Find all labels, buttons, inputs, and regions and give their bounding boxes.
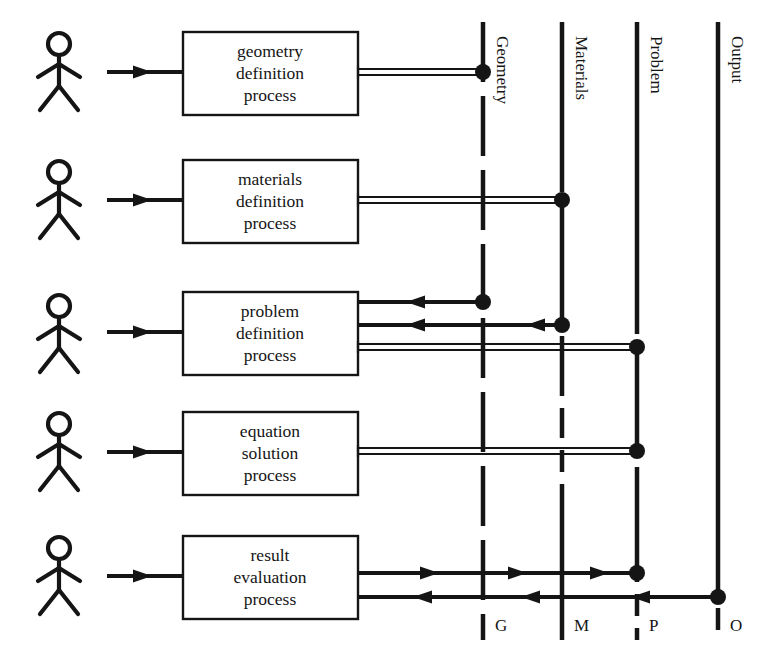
equation-process-writes-problem[interactable] (358, 443, 645, 459)
result-evaluation-process[interactable]: result evaluation process (183, 536, 358, 619)
lifeline-anchor-dot (475, 64, 491, 80)
actor-leg-right (59, 466, 78, 490)
actor-result[interactable] (38, 537, 80, 614)
lifeline-problem[interactable]: Problem P (637, 22, 666, 640)
row-problem-definition: problem definition process (38, 292, 645, 375)
actor-to-result-process-arrow[interactable] (107, 570, 183, 583)
geometry-process-line3: process (244, 85, 297, 105)
actor-equation[interactable] (38, 413, 80, 490)
arrowhead-right-icon (133, 194, 152, 207)
actor-arm-left (38, 192, 59, 205)
arrowhead-right-icon (508, 567, 527, 580)
actor-arm-left (38, 326, 59, 339)
actor-leg-right (59, 86, 78, 110)
arrowhead-left-icon (406, 296, 425, 309)
materials-definition-process[interactable]: materials definition process (183, 160, 358, 243)
arrowhead-left-icon (521, 591, 540, 604)
arrowhead-left-icon (413, 591, 432, 604)
lifeline-anchor-dot (629, 339, 645, 355)
actor-to-geometry-process-arrow[interactable] (107, 66, 183, 79)
lifeline-output-label: Output (728, 36, 747, 84)
actor-geometry[interactable] (38, 33, 80, 110)
result-process-writes-problem[interactable] (358, 565, 645, 581)
arrowhead-right-icon (420, 567, 439, 580)
materials-process-line1: materials (238, 169, 302, 189)
actor-head-icon (48, 537, 70, 559)
actor-leg-right (59, 348, 78, 372)
geometry-process-line2: definition (236, 63, 304, 83)
problem-process-line2: definition (236, 323, 304, 343)
actor-arm-right (59, 326, 80, 339)
arrowhead-right-icon (133, 446, 152, 459)
lifelines-group: Geometry G Materials M Problem P Output … (483, 22, 747, 640)
row-result-evaluation: result evaluation process (38, 536, 726, 619)
lifeline-anchor-dot (710, 589, 726, 605)
lifeline-anchor-dot (554, 192, 570, 208)
actor-arm-left (38, 64, 59, 77)
materials-process-line2: definition (236, 191, 304, 211)
actor-to-problem-process-arrow[interactable] (107, 326, 183, 339)
arrowhead-right-icon (133, 570, 152, 583)
arrowhead-right-icon (133, 326, 152, 339)
actor-to-equation-process-arrow[interactable] (107, 446, 183, 459)
actor-arm-right (59, 192, 80, 205)
lifeline-output-key: O (730, 616, 742, 635)
lifeline-anchor-dot (475, 294, 491, 310)
problem-process-writes-problem[interactable] (358, 339, 645, 355)
result-process-line1: result (251, 545, 290, 565)
actor-leg-right (59, 590, 78, 614)
actor-to-materials-process-arrow[interactable] (107, 194, 183, 207)
problem-definition-process[interactable]: problem definition process (183, 292, 358, 375)
equation-solution-process[interactable]: equation solution process (183, 412, 358, 495)
materials-process-line3: process (244, 213, 297, 233)
actor-head-icon (48, 413, 70, 435)
materials-process-writes-materials[interactable] (358, 192, 570, 208)
lifeline-output[interactable]: Output O (718, 22, 747, 640)
lifeline-anchor-dot (629, 443, 645, 459)
actor-arm-left (38, 444, 59, 457)
row-materials-definition: materials definition process (38, 160, 570, 243)
lifeline-geometry[interactable]: Geometry G (483, 22, 512, 640)
actor-leg-left (40, 214, 59, 238)
lifeline-problem-label: Problem (647, 36, 666, 94)
lifeline-materials-label: Materials (572, 36, 591, 100)
lifeline-geometry-label: Geometry (493, 36, 512, 104)
diagram-canvas: Geometry G Materials M Problem P Output … (0, 0, 773, 667)
lifeline-geometry-key: G (495, 616, 507, 635)
geometry-definition-process[interactable]: geometry definition process (183, 32, 358, 115)
arrowhead-left-icon (631, 591, 650, 604)
result-process-line2: evaluation (234, 567, 307, 587)
lifeline-materials-key: M (574, 616, 589, 635)
output-reads-into-result-process[interactable] (358, 589, 726, 605)
actor-leg-left (40, 348, 59, 372)
actor-materials[interactable] (38, 161, 80, 238)
lifeline-problem-key: P (649, 616, 658, 635)
actor-leg-left (40, 86, 59, 110)
row-equation-solution: equation solution process (38, 412, 645, 495)
arrowhead-left-icon (526, 319, 545, 332)
actor-problem[interactable] (38, 295, 80, 372)
geometry-process-writes-geometry[interactable] (358, 64, 491, 80)
problem-process-line1: problem (241, 301, 300, 321)
geometry-reads-into-problem-process[interactable] (358, 294, 491, 310)
actor-arm-right (59, 568, 80, 581)
lifeline-anchor-dot (554, 317, 570, 333)
actor-arm-right (59, 444, 80, 457)
process-interaction-diagram: Geometry G Materials M Problem P Output … (0, 0, 773, 667)
result-process-line3: process (244, 589, 297, 609)
equation-process-line2: solution (242, 443, 299, 463)
actor-leg-left (40, 590, 59, 614)
geometry-process-line1: geometry (237, 41, 303, 61)
arrowhead-right-icon (590, 567, 609, 580)
equation-process-line1: equation (240, 421, 301, 441)
equation-process-line3: process (244, 465, 297, 485)
actor-head-icon (48, 161, 70, 183)
materials-reads-into-problem-process[interactable] (358, 317, 570, 333)
arrowhead-left-icon (406, 319, 425, 332)
actor-head-icon (48, 295, 70, 317)
arrowhead-right-icon (133, 66, 152, 79)
problem-process-line3: process (244, 345, 297, 365)
row-geometry-definition: geometry definition process (38, 32, 491, 115)
actor-leg-right (59, 214, 78, 238)
actor-head-icon (48, 33, 70, 55)
